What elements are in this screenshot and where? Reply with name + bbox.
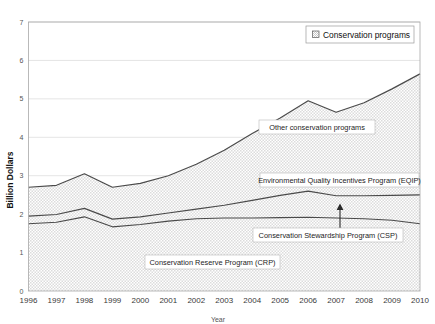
x-tick-label: 2000 bbox=[131, 296, 149, 305]
annotation-label: Conservation Reserve Program (CRP) bbox=[149, 258, 275, 267]
legend-swatch-icon bbox=[313, 31, 320, 38]
x-tick-label: 2006 bbox=[299, 296, 317, 305]
y-axis-title: Billion Dollars bbox=[5, 151, 15, 208]
annotation-other-conservation-programs: Other conservation programs bbox=[259, 120, 375, 134]
y-tick-label: 2 bbox=[20, 211, 24, 218]
x-tick-label: 1998 bbox=[76, 296, 94, 305]
x-tick-label: 1996 bbox=[20, 296, 38, 305]
legend-label: Conservation programs bbox=[323, 30, 410, 40]
y-tick-label: 6 bbox=[20, 57, 24, 64]
x-tick-label: 2002 bbox=[187, 296, 205, 305]
x-tick-label: 2008 bbox=[355, 296, 373, 305]
y-tick-label: 4 bbox=[20, 134, 24, 141]
x-tick-label: 2007 bbox=[327, 296, 345, 305]
legend: Conservation programs bbox=[306, 26, 414, 43]
conservation-spending-area-chart: 01234567 1996199719981999200020012002200… bbox=[0, 0, 435, 324]
x-tick-label: 2005 bbox=[271, 296, 289, 305]
x-tick-label: 2010 bbox=[411, 296, 429, 305]
y-tick-label: 0 bbox=[20, 288, 24, 295]
y-tick-label: 5 bbox=[20, 95, 24, 102]
annotation-label: Environmental Quality Incentives Program… bbox=[258, 176, 421, 185]
x-tick-label: 2001 bbox=[159, 296, 177, 305]
annotation-eqip: Environmental Quality Incentives Program… bbox=[258, 173, 421, 187]
x-axis-tick-labels: 1996199719981999200020012002200320042005… bbox=[20, 296, 430, 305]
x-tick-label: 2003 bbox=[215, 296, 233, 305]
y-tick-label: 1 bbox=[20, 249, 24, 256]
y-tick-label: 3 bbox=[20, 172, 24, 179]
x-tick-label: 1997 bbox=[48, 296, 66, 305]
annotation-crp: Conservation Reserve Program (CRP) bbox=[145, 255, 280, 269]
y-tick-label: 7 bbox=[20, 19, 24, 26]
x-tick-label: 2004 bbox=[243, 296, 261, 305]
annotation-label: Conservation Stewardship Program (CSP) bbox=[259, 231, 398, 240]
x-tick-label: 1999 bbox=[103, 296, 121, 305]
x-axis-title: Year bbox=[211, 316, 226, 323]
chart-canvas: 01234567 1996199719981999200020012002200… bbox=[0, 0, 435, 324]
annotation-label: Other conservation programs bbox=[269, 123, 365, 132]
x-tick-label: 2009 bbox=[383, 296, 401, 305]
